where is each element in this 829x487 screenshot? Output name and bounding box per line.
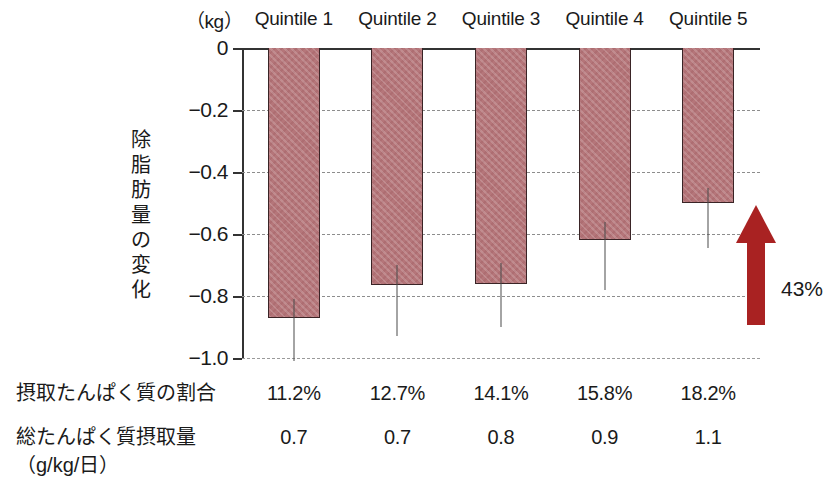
bar-slot-2 bbox=[346, 48, 450, 358]
row-label-protein-percent: 摂取たんぱく質の割合 bbox=[16, 378, 216, 408]
table-row-protein-percent: 摂取たんぱく質の割合 11.2% 12.7% 14.1% 15.8% 18.2% bbox=[0, 378, 829, 412]
column-header-quintile-3: Quintile 3 bbox=[449, 8, 553, 34]
y-tick-label-0: 0 bbox=[217, 36, 228, 60]
chart-figure: （kg） Quintile 1 Quintile 2 Quintile 3 Qu… bbox=[0, 0, 829, 487]
cell-protein-intake-4: 0.9 bbox=[553, 422, 657, 452]
column-header-quintile-1: Quintile 1 bbox=[242, 8, 346, 34]
column-header-quintile-4: Quintile 4 bbox=[553, 8, 657, 34]
plot-area: 0−0.2−0.4−0.6−0.8−1.0 bbox=[242, 48, 760, 358]
column-headers: Quintile 1 Quintile 2 Quintile 3 Quintil… bbox=[242, 8, 760, 34]
cell-protein-percent-5: 18.2% bbox=[656, 378, 760, 408]
column-header-quintile-5: Quintile 5 bbox=[656, 8, 760, 34]
cell-protein-intake-2: 0.7 bbox=[346, 422, 450, 452]
error-bar-quintile-2 bbox=[397, 265, 398, 336]
row-values-protein-intake: 0.7 0.7 0.8 0.9 1.1 bbox=[242, 422, 760, 452]
cell-protein-percent-1: 11.2% bbox=[242, 378, 346, 408]
row-label-protein-intake: 総たんぱく質摂取量 bbox=[16, 422, 196, 452]
arrow-percent-label: 43% bbox=[781, 277, 823, 301]
arrow-shaft bbox=[747, 239, 765, 325]
y-tick-1 bbox=[233, 110, 242, 112]
arrow-head bbox=[736, 205, 776, 243]
cell-protein-intake-5: 1.1 bbox=[656, 422, 760, 452]
bar-quintile-4[interactable] bbox=[579, 48, 631, 240]
bar-slot-4 bbox=[553, 48, 657, 358]
bar-slot-1 bbox=[242, 48, 346, 358]
y-axis-title-char-1: 除 bbox=[128, 128, 154, 153]
y-tick-2 bbox=[233, 172, 242, 174]
row-values-protein-percent: 11.2% 12.7% 14.1% 15.8% 18.2% bbox=[242, 378, 760, 408]
y-axis-title-char-3: 肪 bbox=[128, 178, 154, 203]
y-tick-5 bbox=[233, 358, 242, 360]
error-bar-quintile-5 bbox=[708, 188, 709, 248]
cell-protein-percent-4: 15.8% bbox=[553, 378, 657, 408]
bar-slot-3 bbox=[449, 48, 553, 358]
y-axis-title-char-2: 脂 bbox=[128, 153, 154, 178]
data-table: 摂取たんぱく質の割合 11.2% 12.7% 14.1% 15.8% 18.2%… bbox=[0, 378, 829, 482]
y-tick-label-4: −0.8 bbox=[189, 284, 228, 308]
y-tick-0 bbox=[233, 48, 242, 50]
cell-protein-percent-3: 14.1% bbox=[449, 378, 553, 408]
error-bar-quintile-1 bbox=[293, 299, 294, 361]
table-row-protein-intake: 総たんぱく質摂取量 （g/kg/日） 0.7 0.7 0.8 0.9 1.1 bbox=[0, 422, 829, 482]
cell-protein-percent-2: 12.7% bbox=[346, 378, 450, 408]
error-bar-quintile-4 bbox=[604, 222, 605, 290]
bar-quintile-1[interactable] bbox=[268, 48, 320, 318]
y-tick-label-3: −0.6 bbox=[189, 222, 228, 246]
cell-protein-intake-3: 0.8 bbox=[449, 422, 553, 452]
cell-protein-intake-1: 0.7 bbox=[242, 422, 346, 452]
row-label-protein-intake-unit: （g/kg/日） bbox=[16, 450, 119, 480]
bar-quintile-2[interactable] bbox=[371, 48, 423, 285]
error-bar-quintile-3 bbox=[500, 263, 501, 327]
column-header-quintile-2: Quintile 2 bbox=[346, 8, 450, 34]
y-tick-4 bbox=[233, 296, 242, 298]
increase-arrow-icon bbox=[736, 205, 776, 325]
y-axis-title-char-7: 化 bbox=[128, 278, 154, 303]
y-tick-label-5: −1.0 bbox=[189, 346, 228, 370]
y-tick-label-1: −0.2 bbox=[189, 98, 228, 122]
y-tick-label-2: −0.4 bbox=[189, 160, 228, 184]
bar-quintile-3[interactable] bbox=[475, 48, 527, 284]
y-axis-unit-label: （kg） bbox=[186, 6, 242, 33]
y-axis-title-char-5: の bbox=[128, 228, 154, 253]
y-axis-title-char-6: 変 bbox=[128, 253, 154, 278]
gridline-5 bbox=[242, 358, 760, 359]
y-axis-title-char-4: 量 bbox=[128, 203, 154, 228]
y-axis-title: 除 脂 肪 量 の 変 化 bbox=[128, 128, 154, 303]
bar-series bbox=[242, 48, 760, 358]
y-tick-3 bbox=[233, 234, 242, 236]
bar-quintile-5[interactable] bbox=[682, 48, 734, 203]
